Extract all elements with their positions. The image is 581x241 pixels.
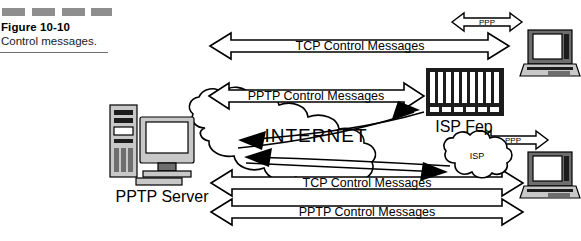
ppp-label: PPP [479,18,495,27]
block-arrow-label: TCP Control Messages [303,176,432,190]
network-diagram: INTERNET TCP Control Messages PPTP Contr… [0,0,581,241]
node-isp-fep: ISP Fep [426,68,504,135]
node-laptop-top [520,30,580,76]
block-arrow-pptp-bottom: PPTP Control Messages [211,199,523,225]
block-arrow-label: PPTP Control Messages [299,205,436,219]
node-pptp-server: PPTP Server [110,105,209,205]
node-label-pptp-server: PPTP Server [115,188,209,205]
node-laptop-bottom [520,152,580,198]
ppp-label: PPP [505,136,521,145]
block-arrow-label: TCP Control Messages [296,39,425,53]
block-arrow-ppp-top: PPP [452,13,522,31]
block-arrow-label: PPTP Control Messages [248,89,385,103]
block-arrow-tcp-top: TCP Control Messages [210,33,509,59]
node-label-isp-fep: ISP Fep [435,118,493,135]
isp-cloud-label: ISP [470,151,485,161]
